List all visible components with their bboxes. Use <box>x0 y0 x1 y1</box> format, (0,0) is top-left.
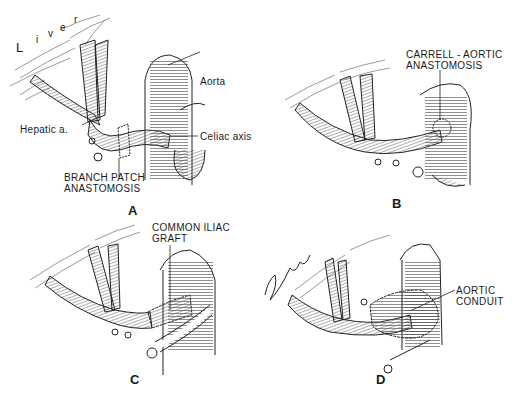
label-aortic: AORTIC <box>456 285 495 296</box>
panel-d-drawing <box>265 235 455 373</box>
liver-letter: i <box>36 34 38 45</box>
label-aorta: Aorta <box>200 76 225 87</box>
liver-letter: r <box>74 14 77 25</box>
liver-letter: e <box>60 22 66 33</box>
label-graft: GRAFT <box>152 233 187 244</box>
label-branch-patch: BRANCH PATCH <box>64 172 145 183</box>
label-hepatic-artery: Hepatic a. <box>20 124 68 135</box>
label-anastomosis: ANASTOMOSIS <box>64 183 140 194</box>
liver-letter: v <box>48 28 53 39</box>
panel-c-drawing <box>30 225 215 375</box>
panel-b-drawing <box>285 60 471 186</box>
liver-letter: L <box>16 40 23 55</box>
caption-b: B <box>392 196 401 211</box>
panel-a-drawing <box>10 15 205 185</box>
caption-d: D <box>376 372 385 387</box>
caption-c: C <box>130 372 139 387</box>
caption-a: A <box>128 203 137 218</box>
label-anastomosis: ANASTOMOSIS <box>406 60 482 71</box>
label-celiac-axis: Celiac axis <box>200 131 252 142</box>
label-common-iliac: COMMON ILIAC <box>152 222 230 233</box>
label-conduit: CONDUIT <box>456 296 504 307</box>
label-carrell-aortic: CARRELL - AORTIC <box>406 49 503 60</box>
